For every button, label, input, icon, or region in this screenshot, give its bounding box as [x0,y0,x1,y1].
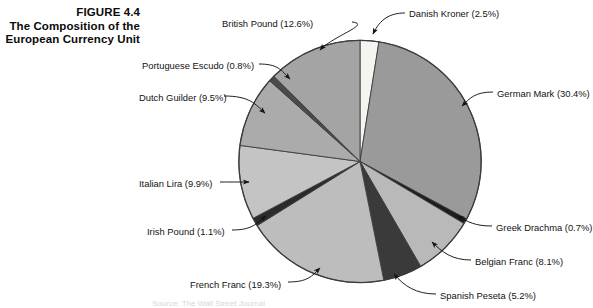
pie-chart: Danish Kroner (2.5%)German Mark (30.4%)G… [238,39,482,284]
figure-container: FIGURE 4.4 The Composition of the Europe… [0,0,593,308]
pie-slice-group: Danish Kroner (2.5%)German Mark (30.4%)G… [239,40,481,282]
figure-title-line-1: The Composition of the [0,20,140,34]
callout-british-pound: British Pound (12.6%) [222,18,313,29]
callout-irish-pound: Irish Pound (1.1%) [147,226,225,237]
callout-portuguese-escudo: Portuguese Escudo (0.8%) [142,60,254,71]
callout-dutch-guilder: Dutch Guilder (9.5%) [139,92,227,103]
callout-greek-drachma: Greek Drachma (0.7%) [496,222,592,233]
figure-title-block: FIGURE 4.4 The Composition of the Europe… [0,6,140,47]
figure-title-line-2: European Currency Unit [0,33,140,47]
figure-number: FIGURE 4.4 [0,6,140,20]
source-note: Source: The Wall Street Journal [152,299,265,308]
callout-belgian-franc: Belgian Franc (8.1%) [475,256,563,267]
callout-danish-kroner: Danish Kroner (2.5%) [409,8,499,19]
callout-french-franc: French Franc (19.3%) [190,279,281,290]
leader-danish-kroner [373,13,405,34]
callout-spanish-peseta: Spanish Peseta (5.2%) [440,290,536,301]
pie-chart-svg: Danish Kroner (2.5%)German Mark (30.4%)G… [238,39,482,284]
callout-german-mark: German Mark (30.4%) [497,88,590,99]
callout-italian-lira: Italian Lira (9.9%) [139,178,212,189]
